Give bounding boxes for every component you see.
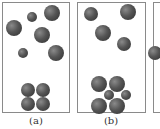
sphere-large (148, 46, 160, 60)
sphere-large (109, 98, 125, 114)
sphere-large (109, 76, 125, 92)
sphere-large (95, 25, 111, 41)
sphere-large (91, 76, 107, 92)
caption-b: (b) (91, 115, 131, 126)
sphere-large (91, 98, 107, 114)
sphere-medium (117, 37, 131, 51)
sphere-medium (84, 7, 98, 21)
caption-a: (a) (16, 115, 56, 126)
sphere-large (48, 45, 64, 61)
sphere-small (27, 12, 37, 22)
sphere-small (18, 48, 28, 58)
sphere-large (44, 5, 60, 21)
sphere-large (34, 27, 50, 43)
sphere-large (21, 83, 35, 97)
sphere-large (21, 97, 35, 111)
sphere-large (6, 20, 22, 36)
sphere-large (120, 4, 136, 20)
sphere-large (36, 83, 50, 97)
sphere-small (121, 90, 131, 100)
sphere-large (36, 97, 50, 111)
